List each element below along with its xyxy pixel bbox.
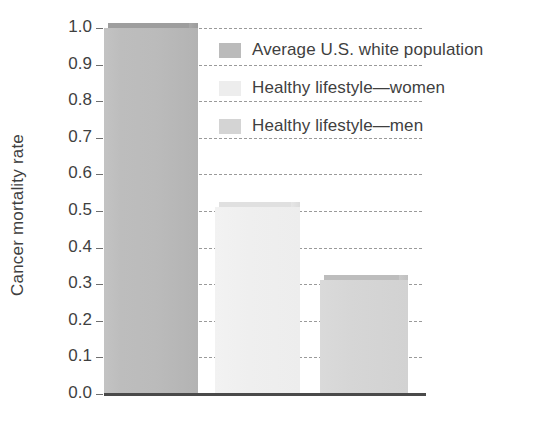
y-axis-tick-mark (96, 394, 103, 395)
y-axis-tick-label: 0.9 (40, 54, 92, 74)
bar-average-us-white-population (104, 28, 198, 394)
y-axis-tick-label: 0.7 (40, 127, 92, 147)
y-axis-tick-label: 0.5 (40, 200, 92, 220)
legend-item-men: Healthy lifestyle—men (219, 109, 483, 143)
y-axis-tick-mark (96, 174, 103, 175)
x-axis-baseline (104, 393, 426, 396)
y-axis-tick-label: 1.0 (40, 17, 92, 37)
legend-label-average: Average U.S. white population (252, 40, 483, 60)
y-axis-tick-mark (96, 248, 103, 249)
y-axis-tick-mark (96, 65, 103, 66)
legend-swatch-icon-women (219, 81, 241, 96)
bar-face (104, 28, 198, 394)
y-axis-tick-mark (96, 321, 103, 322)
y-axis-tick-mark (96, 211, 103, 212)
y-axis-tick-label: 0.6 (40, 163, 92, 183)
y-axis-tick-label: 0.2 (40, 310, 92, 330)
y-axis-tick-mark (96, 101, 103, 102)
cancer-mortality-bar-chart: Cancer mortality rate 1.00.90.80.70.60.5… (0, 0, 544, 430)
y-axis-tick-label: 0.1 (40, 346, 92, 366)
legend-item-average: Average U.S. white population (219, 33, 483, 67)
y-axis-title: Cancer mortality rate (0, 0, 36, 430)
legend-swatch-icon-men (219, 119, 241, 134)
y-axis-tick-label: 0.0 (40, 383, 92, 403)
legend-item-women: Healthy lifestyle—women (219, 71, 483, 105)
bar-healthy-lifestyle-men (320, 280, 408, 394)
legend-swatch-icon-average (219, 43, 241, 58)
y-axis-tick-mark (96, 28, 103, 29)
legend: Average U.S. white population Healthy li… (219, 33, 483, 147)
y-axis-tick-mark (96, 284, 103, 285)
bar-face (215, 207, 300, 394)
legend-label-women: Healthy lifestyle—women (252, 78, 445, 98)
y-axis-tick-label: 0.4 (40, 237, 92, 257)
y-axis-tick-label: 0.8 (40, 90, 92, 110)
bar-face (320, 280, 408, 394)
legend-label-men: Healthy lifestyle—men (252, 116, 423, 136)
y-axis-tick-mark (96, 138, 103, 139)
bar-healthy-lifestyle-women (215, 207, 300, 394)
y-axis-tick-mark (96, 357, 103, 358)
y-axis-tick-label: 0.3 (40, 273, 92, 293)
